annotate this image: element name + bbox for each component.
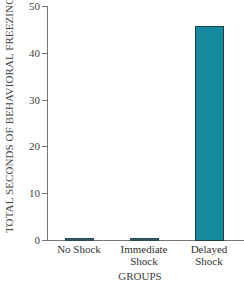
y-tick-20 <box>42 146 47 147</box>
y-tick-label-0: 0 <box>10 234 40 246</box>
x-category-no-shock: No Shock <box>44 243 114 255</box>
category-label-line: Shock <box>109 255 179 267</box>
category-label-line: Shock <box>174 255 244 267</box>
bar-delayed-shock <box>195 26 224 241</box>
y-tick-0 <box>42 240 47 241</box>
y-tick-10 <box>42 193 47 194</box>
y-tick-50 <box>42 6 47 7</box>
y-tick-40 <box>42 53 47 54</box>
category-label-line: No Shock <box>44 243 114 255</box>
y-tick-label-30: 30 <box>10 94 40 106</box>
y-tick-30 <box>42 100 47 101</box>
y-axis-line <box>47 6 48 241</box>
y-tick-label-10: 10 <box>10 187 40 199</box>
x-category-immediate-shock: Immediate Shock <box>109 243 179 267</box>
bar-no-shock <box>65 238 94 241</box>
y-tick-label-50: 50 <box>10 0 40 12</box>
x-axis-label: GROUPS <box>100 270 180 282</box>
x-category-delayed-shock: Delayed Shock <box>174 243 244 267</box>
y-tick-label-20: 20 <box>10 140 40 152</box>
y-tick-label-40: 40 <box>10 47 40 59</box>
category-label-line: Immediate <box>109 243 179 255</box>
category-label-line: Delayed <box>174 243 244 255</box>
bar-immediate-shock <box>130 238 159 241</box>
